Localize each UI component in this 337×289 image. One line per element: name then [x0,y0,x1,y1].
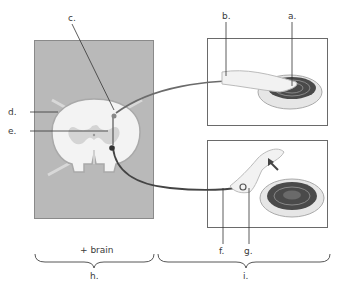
label-f: f. [219,247,224,256]
label-a: a. [288,12,296,21]
label-e: e. [8,127,16,136]
spinal-cord-cross-section [48,99,142,175]
label-b: b. [222,12,231,21]
label-g: g. [244,247,253,256]
label-h: h. [90,272,99,281]
brace-h [35,254,154,268]
hand-withdraw-illustration [230,149,324,217]
diagram-artwork [0,0,337,289]
label-i: i. [243,272,248,281]
brace-caption-brain: + brain [80,246,114,255]
reflex-arc-diagram: c. b. a. d. e. f. g. + brain h. i. [0,0,337,289]
label-c: c. [68,14,76,23]
label-d: d. [8,108,17,117]
brace-i [158,254,330,268]
synapse-sensory [112,114,117,119]
motor-neuron-cell-body [109,145,115,151]
hand-on-burner-illustration [222,71,322,109]
